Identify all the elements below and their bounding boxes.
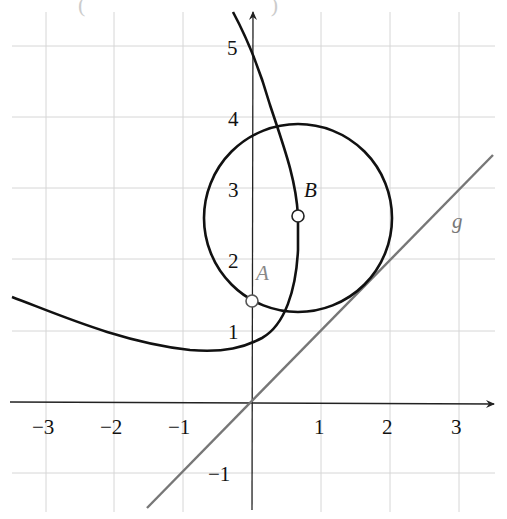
y-tick-label: −1 <box>208 462 230 486</box>
coordinate-plane: −3 −2 −1 1 2 3 −1 1 2 3 4 5 g A B <box>0 0 507 519</box>
y-tick-label: 3 <box>228 178 239 202</box>
y-tick-label: 4 <box>228 107 239 131</box>
point-b <box>292 210 304 222</box>
grid <box>12 12 495 512</box>
x-tick-label: 2 <box>382 415 393 439</box>
y-tick-label: 1 <box>228 320 239 344</box>
x-tick-labels: −3 −2 −1 1 2 3 <box>32 415 462 439</box>
point-a <box>246 295 258 307</box>
y-tick-label: 5 <box>227 36 238 60</box>
x-tick-label: 3 <box>451 415 462 439</box>
point-b-label: B <box>304 178 317 202</box>
line-g-label: g <box>452 209 463 233</box>
x-tick-label: −2 <box>100 415 122 439</box>
x-tick-label: −3 <box>32 415 54 439</box>
point-a-label: A <box>254 261 269 285</box>
y-axis <box>252 12 253 510</box>
y-tick-label: 2 <box>228 249 239 273</box>
x-tick-label: 1 <box>314 415 325 439</box>
x-tick-label: −1 <box>168 415 190 439</box>
